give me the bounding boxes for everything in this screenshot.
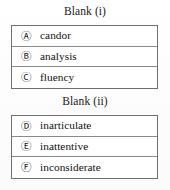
option-row-c[interactable]: Ⓒ fluency xyxy=(12,67,157,88)
option-row-f[interactable]: Ⓕ inconsiderate xyxy=(12,157,157,178)
circled-letter-f-icon: Ⓕ xyxy=(12,162,40,173)
option-label-a: candor xyxy=(40,29,157,43)
option-row-b[interactable]: Ⓑ analysis xyxy=(12,47,157,68)
option-label-e: inattentive xyxy=(40,140,157,154)
options-box-blank-ii: Ⓓ inarticulate Ⓔ inattentive Ⓕ inconside… xyxy=(11,115,158,179)
group-title-blank-i: Blank (i) xyxy=(0,4,170,19)
option-row-a[interactable]: Ⓐ candor xyxy=(12,26,157,47)
circled-letter-d-icon: Ⓓ xyxy=(12,120,40,131)
group-title-blank-ii: Blank (ii) xyxy=(0,94,170,109)
option-label-c: fluency xyxy=(40,71,157,85)
option-label-b: analysis xyxy=(40,50,157,64)
option-label-f: inconsiderate xyxy=(40,161,157,175)
option-row-d[interactable]: Ⓓ inarticulate xyxy=(12,116,157,137)
circled-letter-e-icon: Ⓔ xyxy=(12,141,40,152)
answer-choices-sheet: Blank (i) Ⓐ candor Ⓑ analysis Ⓒ fluency … xyxy=(0,0,170,190)
options-box-blank-i: Ⓐ candor Ⓑ analysis Ⓒ fluency xyxy=(11,25,158,89)
answer-group-blank-i: Blank (i) Ⓐ candor Ⓑ analysis Ⓒ fluency xyxy=(0,2,170,89)
option-row-e[interactable]: Ⓔ inattentive xyxy=(12,137,157,158)
circled-letter-a-icon: Ⓐ xyxy=(12,30,40,41)
option-label-d: inarticulate xyxy=(40,119,157,133)
circled-letter-b-icon: Ⓑ xyxy=(12,51,40,62)
circled-letter-c-icon: Ⓒ xyxy=(12,72,40,83)
answer-group-blank-ii: Blank (ii) Ⓓ inarticulate Ⓔ inattentive … xyxy=(0,92,170,179)
